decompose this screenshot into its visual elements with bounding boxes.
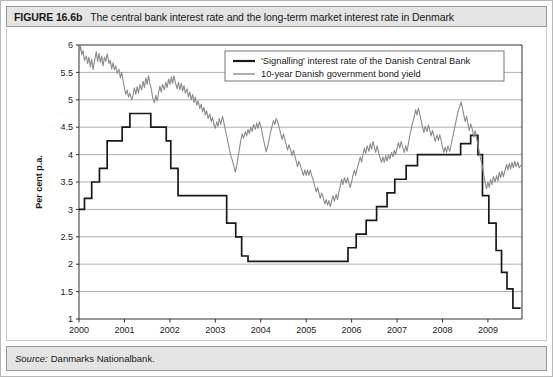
figure-footer: Source: Danmarks Nationalbank.	[6, 346, 547, 371]
figure-header: FIGURE 16.6b The central bank interest r…	[6, 6, 547, 27]
figure-container: FIGURE 16.6b The central bank interest r…	[0, 0, 553, 377]
figure-title: The central bank interest rate and the l…	[82, 11, 454, 23]
source-text: Danmarks Nationalbank.	[48, 353, 155, 364]
figure-number: FIGURE 16.6b	[7, 11, 82, 23]
chart-canvas	[6, 28, 547, 341]
source-label: Source:	[7, 353, 48, 364]
